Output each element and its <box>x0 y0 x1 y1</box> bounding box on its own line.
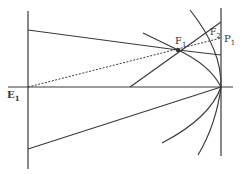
lower-ray <box>28 87 221 149</box>
dashed-line <box>28 38 221 87</box>
label-f1: F1 <box>175 36 186 49</box>
label-e1: E1 <box>7 90 20 102</box>
upper-ray <box>28 30 178 50</box>
label-p1: P1 <box>224 34 235 47</box>
optics-diagram <box>0 0 242 174</box>
rising-ray <box>130 22 221 87</box>
label-f2: F2 <box>210 28 221 40</box>
